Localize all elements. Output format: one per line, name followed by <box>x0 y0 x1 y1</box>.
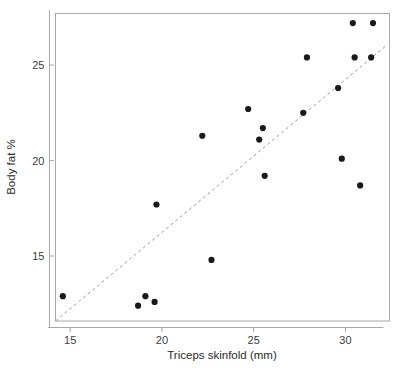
data-point <box>368 54 374 60</box>
x-tick-label: 30 <box>339 334 351 346</box>
data-point <box>60 293 66 299</box>
data-point <box>245 106 251 112</box>
data-point <box>352 54 358 60</box>
data-point <box>153 201 159 207</box>
data-point <box>370 20 376 26</box>
data-point <box>350 20 356 26</box>
data-point <box>142 293 148 299</box>
x-tick-label: 20 <box>156 334 168 346</box>
data-points-group <box>60 20 376 309</box>
data-point <box>339 156 345 162</box>
data-point <box>260 125 266 131</box>
y-axis-title: Body fat % <box>5 139 17 195</box>
data-point <box>262 173 268 179</box>
y-axis: 152025 <box>32 10 54 328</box>
data-point <box>256 136 262 142</box>
x-axis-title: Triceps skinfold (mm) <box>167 349 277 361</box>
y-tick-label: 15 <box>32 250 44 262</box>
plot-canvas: 15202530 152025 Triceps skinfold (mm) Bo… <box>0 0 408 374</box>
data-point <box>335 85 341 91</box>
data-point <box>135 303 141 309</box>
data-point <box>208 257 214 263</box>
data-point <box>300 110 306 116</box>
x-axis: 15202530 <box>48 328 383 346</box>
y-tick-label: 20 <box>32 155 44 167</box>
plot-frame <box>56 14 390 322</box>
data-point <box>304 54 310 60</box>
scatter-plot-figure: 15202530 152025 Triceps skinfold (mm) Bo… <box>0 0 408 374</box>
x-tick-label: 15 <box>64 334 76 346</box>
data-point <box>357 182 363 188</box>
y-tick-label: 25 <box>32 59 44 71</box>
data-point <box>151 299 157 305</box>
data-point <box>199 133 205 139</box>
x-tick-label: 25 <box>248 334 260 346</box>
